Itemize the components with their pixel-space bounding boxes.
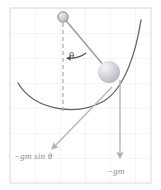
pivot-circle bbox=[58, 12, 68, 22]
pendulum-force-diagram: θ −gm sin θ −gm bbox=[0, 0, 161, 190]
pendulum-bob bbox=[98, 61, 120, 83]
tangential-force-label: −gm sin θ bbox=[14, 151, 52, 161]
angle-label-theta: θ bbox=[69, 49, 74, 61]
diagram-canvas bbox=[0, 0, 161, 190]
gravity-force-label: −gm bbox=[107, 166, 125, 176]
